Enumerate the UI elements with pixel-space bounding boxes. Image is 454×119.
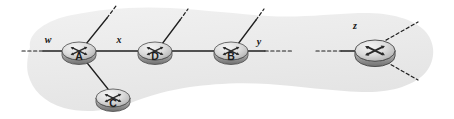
edge-label-w: w	[45, 34, 52, 45]
router-d-label: D	[151, 50, 159, 62]
edge-label-z: z	[352, 20, 357, 31]
router-a[interactable]: A	[62, 42, 96, 65]
router-c-label: C	[109, 97, 117, 109]
router-b-label: B	[227, 50, 235, 62]
router-icon	[355, 40, 395, 67]
router-a-label: A	[75, 50, 83, 62]
edge-label-y: y	[256, 36, 262, 47]
router-c[interactable]: C	[96, 89, 130, 112]
edge-label-x: x	[116, 34, 122, 45]
router-d[interactable]: D	[138, 42, 172, 65]
router-z[interactable]	[355, 40, 395, 67]
network-diagram: A D B C w x y z	[0, 0, 454, 119]
router-b[interactable]: B	[214, 42, 248, 65]
network-diagram-canvas: A D B C w x y z	[0, 0, 454, 119]
